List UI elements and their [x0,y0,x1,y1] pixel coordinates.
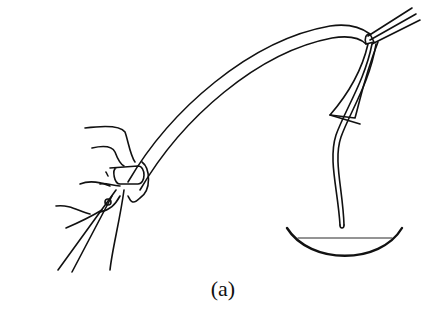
illustration-figure: (a) [0,0,446,321]
line-drawing [0,0,446,321]
figure-caption: (a) [0,276,446,302]
dish [287,228,402,256]
forceps-lower-left [56,190,124,272]
hanging-strand [333,44,376,228]
forceps-top-right [365,8,420,44]
membrane-flap [330,42,378,124]
